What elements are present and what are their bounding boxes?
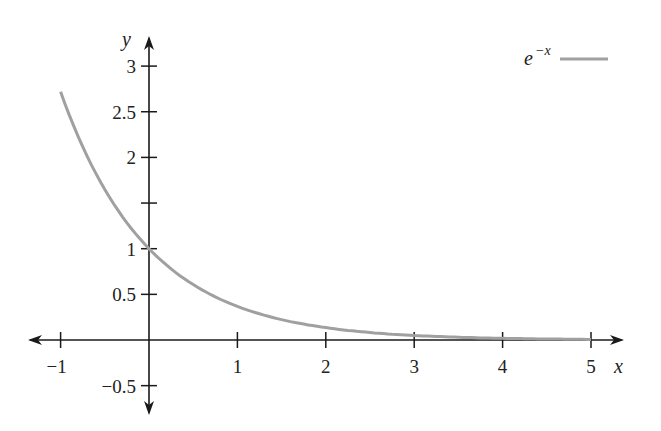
legend-label-exponent: −x (535, 43, 551, 58)
x-tick-label: 2 (321, 356, 331, 377)
series-line-exp-neg-x (61, 92, 591, 340)
legend: e −x (524, 43, 608, 69)
y-tick-label: −0.5 (102, 376, 136, 397)
y-axis-label: y (120, 28, 131, 51)
y-tick-label: 2 (127, 147, 137, 168)
x-axis-label: x (613, 355, 623, 377)
chart: −112345 32.5210.5−0.5 x y e −x (0, 0, 661, 431)
x-tick-label: −1 (46, 356, 66, 377)
y-tick-label: 0.5 (112, 284, 136, 305)
x-tick-label: 3 (409, 356, 419, 377)
legend-label-base: e (524, 47, 533, 69)
y-tick-label: 3 (127, 56, 137, 77)
y-tick-label: 1 (127, 239, 137, 260)
y-tick-label: 2.5 (112, 102, 136, 123)
x-tick-label: 5 (586, 356, 596, 377)
x-tick-label: 4 (498, 356, 508, 377)
x-tick-label: 1 (233, 356, 243, 377)
